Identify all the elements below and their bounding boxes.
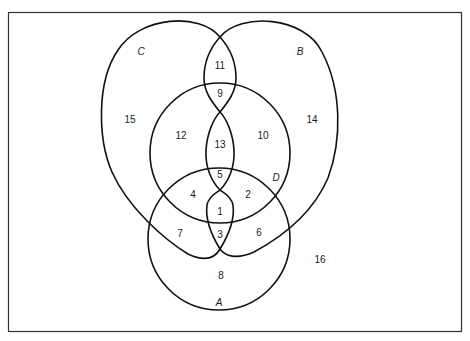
set-label-d: D <box>272 172 279 183</box>
venn-diagram: C B D A 1 2 3 4 5 6 7 8 9 10 11 12 13 14… <box>0 0 470 341</box>
region-label: 11 <box>215 60 226 71</box>
set-label-a: A <box>215 297 223 308</box>
region-label: 8 <box>218 270 224 281</box>
region-label: 7 <box>177 228 183 239</box>
region-label: 16 <box>314 254 326 265</box>
region-label: 5 <box>217 169 223 180</box>
region-label: 4 <box>190 189 196 200</box>
region-label: 14 <box>306 114 318 125</box>
region-label: 6 <box>256 227 262 238</box>
diagram-frame <box>9 13 462 332</box>
region-label: 10 <box>257 130 269 141</box>
region-label: 13 <box>214 139 226 150</box>
region-label: 2 <box>245 189 251 200</box>
set-label-b: B <box>297 46 304 57</box>
region-label: 9 <box>217 88 223 99</box>
region-label: 15 <box>124 114 136 125</box>
region-label: 3 <box>217 229 223 240</box>
set-label-c: C <box>137 46 145 57</box>
region-label: 1 <box>217 206 223 217</box>
region-label: 12 <box>175 130 187 141</box>
